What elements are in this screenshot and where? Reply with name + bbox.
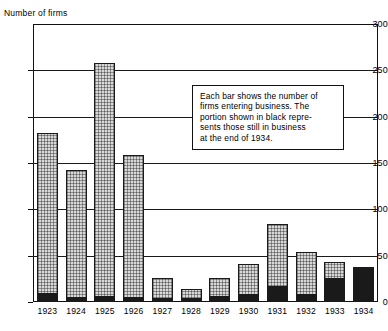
bar-chart: Number of firms 050100150200250300 19231… [0, 0, 388, 331]
bar-total-segment [94, 63, 115, 302]
annotation-line: firms entering business. The [200, 101, 336, 111]
x-tick-label: 1933 [321, 306, 350, 316]
bar-black-segment [37, 293, 58, 302]
bar-black-segment [238, 294, 259, 302]
bar-group [296, 252, 317, 302]
x-tick-label: 1931 [263, 306, 292, 316]
x-tick-label: 1928 [177, 306, 206, 316]
bar-black-segment [181, 298, 202, 302]
x-tick-label: 1927 [148, 306, 177, 316]
y-axis-title: Number of firms [4, 8, 67, 18]
bar-black-segment [324, 278, 345, 302]
bar-group [353, 267, 374, 302]
x-tick-label: 1930 [234, 306, 263, 316]
bar-group [152, 278, 173, 302]
bar-black-segment [296, 294, 317, 302]
annotation-line: portion shown in black repre- [200, 112, 336, 122]
bar-black-segment [66, 297, 87, 302]
x-tick-label: 1925 [91, 306, 120, 316]
bars-layer [33, 24, 378, 302]
bar-group [181, 289, 202, 302]
annotation-line: at the end of 1934. [200, 133, 336, 143]
bar-total-segment [37, 133, 58, 302]
x-tick-label: 1926 [119, 306, 148, 316]
bar-group [94, 63, 115, 302]
x-tick-label: 1924 [62, 306, 91, 316]
y-tick-mark [28, 302, 33, 303]
x-tick-label: 1923 [33, 306, 62, 316]
bar-group [37, 133, 58, 302]
bar-group [123, 155, 144, 302]
bar-group [324, 262, 345, 302]
x-tick-label: 1932 [292, 306, 321, 316]
annotation-note: Each bar shows the number offirms enteri… [192, 85, 344, 150]
bar-black-segment [123, 297, 144, 302]
bar-group [267, 224, 288, 302]
bar-total-segment [123, 155, 144, 302]
bar-black-segment [94, 296, 115, 302]
x-tick-label: 1934 [349, 306, 378, 316]
bar-group [209, 278, 230, 302]
bar-total-segment [66, 170, 87, 303]
annotation-line: Each bar shows the number of [200, 91, 336, 101]
bar-black-segment [353, 267, 374, 302]
bar-black-segment [209, 296, 230, 302]
bar-black-segment [267, 286, 288, 302]
annotation-line: sents those still in business [200, 122, 336, 132]
bar-group [238, 264, 259, 302]
bar-group [66, 170, 87, 303]
bar-black-segment [152, 298, 173, 302]
x-tick-label: 1929 [206, 306, 235, 316]
